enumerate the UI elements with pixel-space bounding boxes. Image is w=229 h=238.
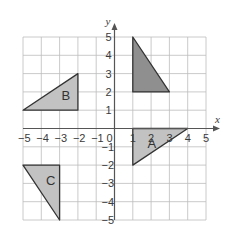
y-axis-label: y bbox=[105, 15, 111, 27]
coordinate-grid-diagram: xy −5−4−3−2−101234554321−1−2−3−4−5 ABC bbox=[0, 0, 229, 238]
y-tick-label: −4 bbox=[102, 196, 115, 208]
x-axis-arrow-icon bbox=[213, 126, 220, 132]
y-tick-label: −3 bbox=[102, 177, 115, 189]
x-tick-label: −2 bbox=[73, 132, 86, 144]
y-axis-arrow-icon bbox=[112, 23, 118, 30]
y-tick-label: 5 bbox=[106, 31, 112, 43]
shape-label-c: C bbox=[46, 173, 55, 188]
y-tick-label: 2 bbox=[106, 86, 112, 98]
y-tick-label: 1 bbox=[106, 104, 112, 116]
shape-label-b: B bbox=[61, 88, 70, 103]
x-tick-label: 1 bbox=[130, 132, 136, 144]
y-tick-label: 4 bbox=[106, 49, 112, 61]
x-tick-label: 5 bbox=[203, 132, 209, 144]
y-tick-label: −2 bbox=[102, 159, 115, 171]
x-tick-label: −4 bbox=[36, 132, 49, 144]
y-tick-label: 3 bbox=[106, 68, 112, 80]
y-tick-label: −5 bbox=[102, 214, 115, 226]
x-tick-label: −5 bbox=[18, 132, 31, 144]
shape-label-a: A bbox=[147, 136, 156, 151]
grid-canvas: xy −5−4−3−2−101234554321−1−2−3−4−5 ABC bbox=[0, 0, 229, 238]
x-tick-label: 4 bbox=[185, 132, 191, 144]
y-tick-label: −1 bbox=[102, 141, 115, 153]
x-axis-label: x bbox=[214, 113, 220, 125]
x-tick-label: −3 bbox=[55, 132, 68, 144]
x-tick-label: 3 bbox=[166, 132, 172, 144]
